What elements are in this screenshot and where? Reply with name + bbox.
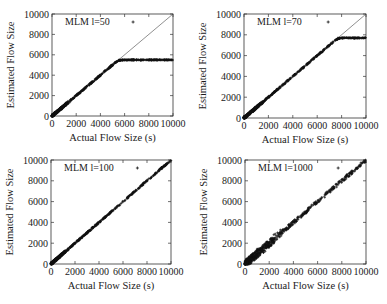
y-tick-label: 0 bbox=[236, 113, 241, 124]
x-axis-label: Actual Flow Size (s) bbox=[68, 280, 155, 292]
legend-label: MLM l=1000 bbox=[258, 162, 313, 173]
x-tick-label: 10000 bbox=[159, 266, 184, 277]
y-tick-label: 4000 bbox=[222, 217, 242, 228]
legend: MLM l=1000 bbox=[258, 162, 340, 173]
y-tick-label: 6000 bbox=[28, 196, 48, 207]
x-tick-label: 10000 bbox=[354, 266, 379, 277]
x-tick-label: 8000 bbox=[137, 266, 157, 277]
legend-label: MLM l=70 bbox=[257, 16, 302, 27]
y-tick-label: 8000 bbox=[222, 175, 242, 186]
x-tick-label: 6000 bbox=[307, 120, 327, 131]
y-tick-label: 6000 bbox=[221, 50, 241, 61]
x-axis-label: Actual Flow Size (s) bbox=[69, 132, 156, 144]
y-tick-label: 8000 bbox=[29, 29, 49, 40]
x-tick-label: 8000 bbox=[139, 118, 159, 129]
scatter-points bbox=[50, 159, 173, 265]
x-tick-label: 10000 bbox=[161, 118, 186, 129]
x-tick-label: 4000 bbox=[90, 118, 110, 129]
y-axis-label: Estimated Flow Size bbox=[5, 21, 16, 108]
x-axis-label: Actual Flow Size (s) bbox=[262, 134, 349, 146]
scatter-points bbox=[243, 36, 367, 119]
x-tick-label: 6000 bbox=[308, 266, 328, 277]
y-tick-label: 6000 bbox=[222, 196, 242, 207]
y-tick-label: 4000 bbox=[28, 217, 48, 228]
x-tick-label: 4000 bbox=[89, 266, 109, 277]
x-tick-label: 2000 bbox=[66, 118, 86, 129]
y-tick-label: 2000 bbox=[28, 238, 48, 249]
x-tick-label: 0 bbox=[242, 120, 247, 131]
subplot-3: 0200040006000800010000020004000600080001… bbox=[4, 155, 184, 293]
y-tick-label: 4000 bbox=[29, 70, 49, 81]
y-tick-label: 10000 bbox=[217, 155, 242, 166]
y-tick-label: 10000 bbox=[216, 9, 241, 20]
y-tick-label: 0 bbox=[237, 259, 242, 270]
x-tick-label: 2000 bbox=[259, 266, 279, 277]
x-tick-label: 2000 bbox=[65, 266, 85, 277]
scatter-points bbox=[51, 58, 174, 117]
x-tick-label: 0 bbox=[50, 118, 55, 129]
x-tick-label: 0 bbox=[49, 266, 54, 277]
x-tick-label: 10000 bbox=[354, 120, 379, 131]
scatter-points bbox=[244, 159, 367, 266]
subplot-1: 0200040006000800010000020004000600080001… bbox=[5, 9, 186, 145]
chart-canvas: 0200040006000800010000020004000600080001… bbox=[0, 0, 387, 304]
x-tick-label: 4000 bbox=[283, 120, 303, 131]
legend: MLM l=70 bbox=[257, 16, 330, 27]
y-tick-label: 10000 bbox=[24, 9, 49, 20]
y-tick-label: 0 bbox=[44, 111, 49, 122]
legend-label: MLM l=100 bbox=[64, 162, 114, 173]
legend-label: MLM l=50 bbox=[65, 16, 110, 27]
y-tick-label: 0 bbox=[43, 259, 48, 270]
x-tick-label: 2000 bbox=[258, 120, 278, 131]
subplot-4: 0200040006000800010000020004000600080001… bbox=[198, 155, 379, 293]
y-axis-label: Estimated Flow Size bbox=[4, 168, 15, 255]
legend: MLM l=100 bbox=[64, 162, 139, 173]
y-tick-label: 8000 bbox=[28, 175, 48, 186]
y-tick-label: 8000 bbox=[221, 29, 241, 40]
y-tick-label: 2000 bbox=[221, 92, 241, 103]
y-tick-label: 6000 bbox=[29, 49, 49, 60]
x-tick-label: 4000 bbox=[283, 266, 303, 277]
x-tick-label: 8000 bbox=[332, 266, 352, 277]
y-tick-label: 10000 bbox=[23, 155, 48, 166]
legend: MLM l=50 bbox=[65, 16, 135, 27]
y-axis-label: Estimated Flow Size bbox=[198, 168, 209, 255]
y-tick-label: 4000 bbox=[221, 71, 241, 82]
y-axis-label: Estimated Flow Size bbox=[197, 22, 208, 109]
y-tick-label: 2000 bbox=[222, 238, 242, 249]
x-tick-label: 6000 bbox=[115, 118, 135, 129]
x-tick-label: 6000 bbox=[113, 266, 133, 277]
subplot-2: 0200040006000800010000020004000600080001… bbox=[197, 9, 379, 147]
x-axis-label: Actual Flow Size (s) bbox=[262, 280, 349, 292]
x-tick-label: 0 bbox=[243, 266, 248, 277]
y-tick-label: 2000 bbox=[29, 90, 49, 101]
x-tick-label: 8000 bbox=[332, 120, 352, 131]
